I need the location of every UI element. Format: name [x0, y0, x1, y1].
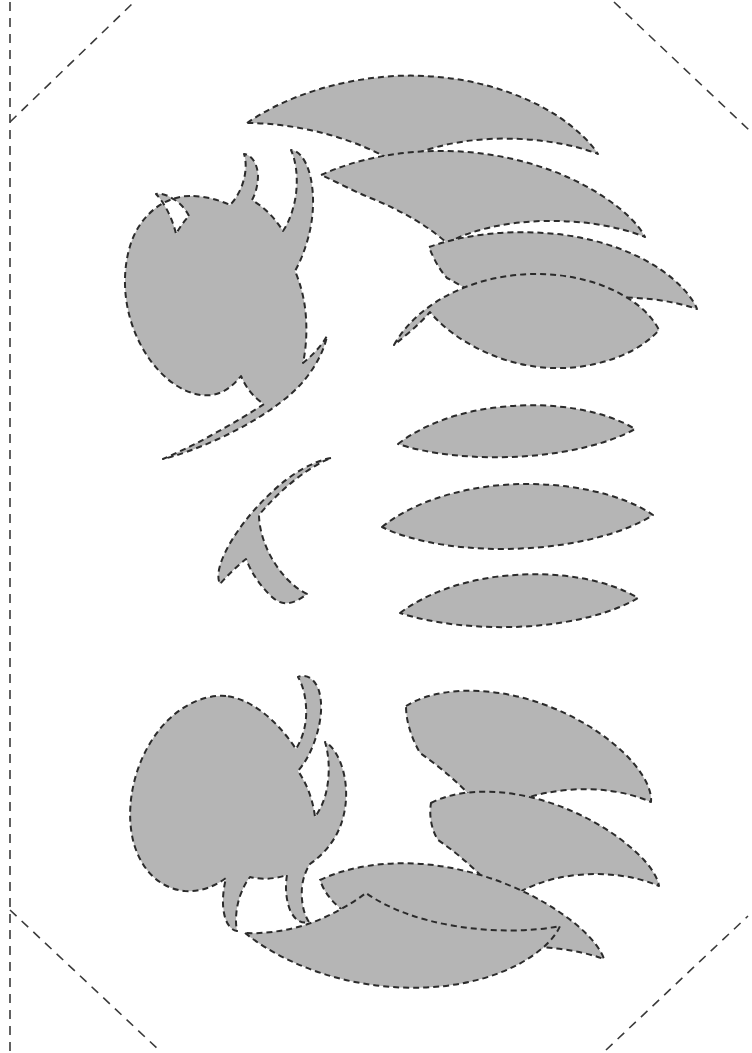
- shell-crescent-2: [321, 151, 645, 243]
- lens-leaf-3: [400, 574, 638, 627]
- crescent-boomerang: [218, 458, 331, 603]
- claw-body-upper: [125, 150, 327, 459]
- top-right-corner-guide: [614, 2, 749, 130]
- bottom-right-corner-guide: [606, 916, 748, 1050]
- pattern-sheet-page: [0, 0, 752, 1053]
- top-left-corner-guide: [10, 2, 134, 122]
- pattern-pieces-group: [125, 76, 697, 988]
- pattern-artwork: [0, 0, 752, 1053]
- lens-leaf-1: [398, 405, 635, 457]
- shell-crescent-1: [247, 76, 598, 163]
- bottom-left-corner-guide: [10, 910, 160, 1051]
- lens-leaf-2: [382, 484, 653, 549]
- claw-body-lower: [130, 676, 346, 931]
